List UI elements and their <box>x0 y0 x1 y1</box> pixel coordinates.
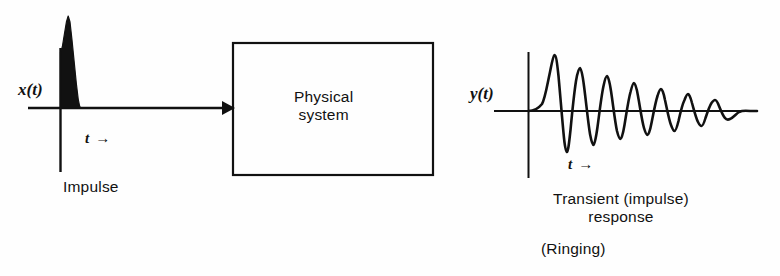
physical-system-label: Physical system <box>294 88 353 124</box>
input-time-axis-symbol: t <box>85 130 89 146</box>
output-time-axis-arrow-icon: → <box>578 155 593 172</box>
input-time-axis-arrow-icon: → <box>95 129 110 146</box>
input-time-axis-label: t→ <box>85 129 110 147</box>
connector-arrow-group <box>176 101 235 115</box>
input-signal-label: x(t) <box>18 80 43 100</box>
input-caption: Impulse <box>63 178 119 196</box>
output-time-axis-label: t→ <box>568 155 593 173</box>
output-caption-line2: response <box>526 208 716 226</box>
physical-system-label-line2: system <box>294 106 353 124</box>
impulse-pulse-curve <box>61 16 81 108</box>
diagram-canvas <box>0 0 780 276</box>
physical-system-label-line1: Physical <box>294 88 353 106</box>
output-subcaption: (Ringing) <box>541 240 606 258</box>
output-caption-line1: Transient (impulse) <box>526 190 716 208</box>
transient-response-curve <box>529 55 758 152</box>
output-time-axis-symbol: t <box>568 156 572 172</box>
input-plot-group <box>28 16 176 172</box>
output-plot-group <box>494 52 757 178</box>
output-signal-label: y(t) <box>470 84 494 104</box>
figure-container: x(t) t→ Impulse Physical system y(t) t→ … <box>0 0 780 276</box>
output-caption: Transient (impulse) response <box>526 190 716 226</box>
